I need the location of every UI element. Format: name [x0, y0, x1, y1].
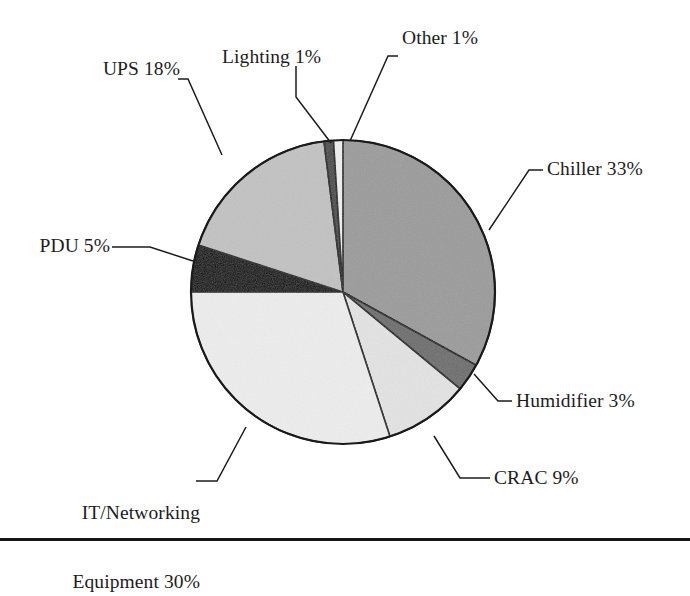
- slice-label-pdu: PDU 5%: [0, 234, 110, 257]
- slice-label-humidifier: Humidifier 3%: [516, 389, 635, 412]
- leader-line-lighting: [296, 66, 331, 143]
- leader-line-pdu: [112, 247, 193, 261]
- leader-line-humidifier: [474, 374, 512, 401]
- leader-line-other: [350, 56, 398, 141]
- slice-label-crac: CRAC 9%: [494, 466, 579, 489]
- leader-line-it: [196, 427, 246, 481]
- slice-label-it-networking-line2: Equipment 30%: [24, 570, 200, 593]
- leader-line-crac: [434, 436, 490, 478]
- slice-label-chiller: Chiller 33%: [547, 157, 643, 180]
- slice-label-lighting: Lighting 1%: [222, 45, 321, 68]
- leader-line-ups: [178, 79, 222, 155]
- slice-label-it-networking: IT/Networking Equipment 30%: [24, 455, 200, 596]
- leader-line-chiller: [489, 170, 543, 230]
- pie-slices-group: [191, 140, 495, 444]
- slice-label-it-networking-line1: IT/Networking: [24, 501, 200, 524]
- footer-rule: [0, 538, 690, 541]
- slice-label-ups: UPS 18%: [0, 57, 180, 80]
- slice-label-other: Other 1%: [402, 26, 478, 49]
